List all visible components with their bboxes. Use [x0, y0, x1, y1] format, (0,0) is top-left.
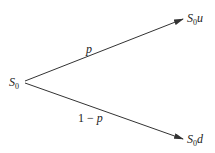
up-edge-arrow — [25, 19, 183, 81]
root-node-label: S0 — [9, 76, 19, 91]
root-node-subscript: 0 — [15, 82, 19, 91]
down-node-suffix: d — [197, 132, 203, 146]
up-node-suffix: u — [197, 11, 203, 25]
down-edge-probability-label: 1 − p — [78, 112, 103, 124]
down-probability-prefix: 1 − — [78, 111, 97, 125]
down-probability-variable: p — [97, 111, 103, 125]
down-edge-arrow — [25, 83, 183, 139]
down-node-label: S0d — [187, 133, 203, 148]
up-node-label: S0u — [187, 12, 203, 27]
up-probability-text: p — [86, 42, 92, 56]
up-edge-probability-label: p — [86, 43, 92, 55]
binomial-tree-diagram — [0, 0, 215, 153]
